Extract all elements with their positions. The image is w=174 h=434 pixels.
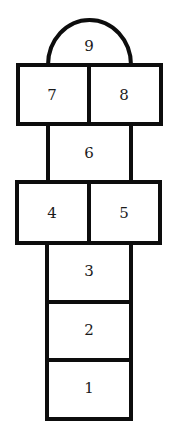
square-7-label: 7 [47, 86, 57, 104]
square-4-label: 4 [47, 204, 57, 222]
hopscotch-diagram: 9 7 8 6 4 5 3 2 1 [0, 0, 174, 434]
square-6-label: 6 [84, 144, 94, 162]
square-3-label: 3 [84, 262, 94, 280]
square-8-label: 8 [119, 86, 129, 104]
square-2-label: 2 [84, 321, 94, 339]
square-1-label: 1 [84, 379, 94, 397]
square-5-label: 5 [119, 204, 129, 222]
square-9-label: 9 [84, 37, 94, 55]
